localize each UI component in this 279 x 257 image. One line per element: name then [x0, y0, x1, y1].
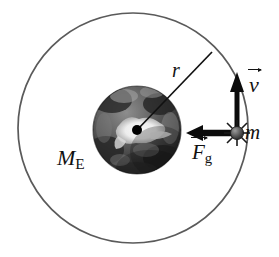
velocity-symbol: v — [249, 72, 259, 97]
radius-label: r — [172, 60, 180, 80]
satellite-mass-dot — [231, 127, 244, 140]
force-subscript: g — [205, 150, 212, 166]
diagram-canvas — [0, 0, 279, 257]
velocity-label: v — [249, 74, 259, 96]
earth-sphere — [88, 86, 190, 186]
gravitational-force-label: F g — [192, 142, 212, 166]
force-symbol: F — [192, 140, 205, 164]
vector-arrow-icon — [248, 69, 261, 70]
earth-mass-subscript: E — [75, 155, 84, 172]
earth-mass-symbol: M — [57, 145, 75, 170]
orbital-mechanics-diagram: ME r v F g m — [0, 0, 279, 257]
vector-arrow-icon — [191, 137, 207, 138]
earth-mass-label: ME — [57, 147, 85, 172]
earth-center-dot — [132, 125, 142, 135]
satellite-mass-label: m — [245, 122, 260, 143]
